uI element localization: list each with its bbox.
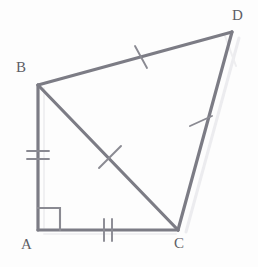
segment-BD — [38, 32, 232, 85]
vertex-label-B: B — [16, 60, 26, 75]
right-angle-marker — [38, 208, 60, 230]
geometry-figure: B A C D — [0, 0, 258, 267]
vertex-label-D: D — [232, 8, 243, 23]
vertex-label-A: A — [21, 237, 32, 252]
segment-CD — [178, 32, 232, 230]
geometry-canvas — [0, 0, 258, 267]
ghost-line-cd — [186, 38, 239, 232]
vertex-label-C: C — [174, 236, 184, 251]
figure-edges — [38, 32, 232, 230]
scan-artifacts — [44, 36, 239, 234]
